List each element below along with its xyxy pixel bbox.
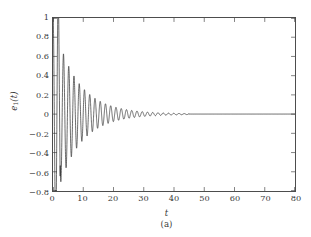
data-series-line xyxy=(53,18,295,191)
x-axis-tick-labels: 01020304050607080 xyxy=(52,194,296,208)
y-axis-title-base: e xyxy=(9,106,19,111)
y-tick-label: 0.8 xyxy=(25,32,49,40)
x-tick-label: 60 xyxy=(220,194,250,202)
y-tick-label: −0.6 xyxy=(25,169,49,177)
figure-panel: 10.80.60.40.20−0.2−0.4−0.6−0.8 e1(t) 010… xyxy=(0,0,311,237)
y-axis-tick-labels: 10.80.60.40.20−0.2−0.4−0.6−0.8 xyxy=(22,17,49,192)
y-tick-label: −0.4 xyxy=(25,149,49,157)
y-tick-label: 1 xyxy=(25,13,49,21)
plot-svg xyxy=(53,18,295,191)
y-tick-label: 0.4 xyxy=(25,71,49,79)
y-axis-title-argument: (t) xyxy=(9,91,19,101)
x-tick-label: 40 xyxy=(159,194,189,202)
y-axis-title-subscript: 1 xyxy=(12,102,19,106)
x-tick-label: 20 xyxy=(98,194,128,202)
plot-area xyxy=(52,17,296,192)
x-tick-label: 50 xyxy=(190,194,220,202)
x-tick-label: 0 xyxy=(37,194,67,202)
axis-tick-marks xyxy=(53,18,295,191)
figure-caption: (a) xyxy=(0,219,311,229)
y-tick-label: 0.2 xyxy=(25,91,49,99)
y-tick-label: 0 xyxy=(25,110,49,118)
y-tick-label: 0.6 xyxy=(25,52,49,60)
x-tick-label: 10 xyxy=(68,194,98,202)
x-tick-label: 30 xyxy=(129,194,159,202)
x-tick-label: 80 xyxy=(281,194,311,202)
y-axis-title: e1(t) xyxy=(9,79,19,123)
y-tick-label: −0.2 xyxy=(25,130,49,138)
x-tick-label: 70 xyxy=(251,194,281,202)
x-axis-title: t xyxy=(0,208,311,218)
